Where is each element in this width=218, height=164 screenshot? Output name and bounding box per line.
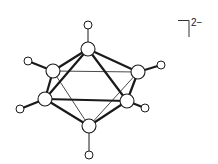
boron-atom-lower-right [120,94,134,108]
hydrogen-atoms [16,21,165,159]
hydrogen-atom-upper-right [157,61,165,69]
boron-atom-top [81,42,95,56]
charge-bracket [178,21,189,38]
boron-atom-lower-left [38,92,52,106]
boron-atom-upper-left [46,64,60,78]
borane-cluster-diagram [0,0,218,164]
hydrogen-atom-lower-right [141,104,149,112]
hydrogen-atom-upper-left [24,57,32,65]
edge-ll-lr [45,99,127,101]
edge-ul-ur [53,71,138,72]
hydrogen-atom-top [84,21,92,29]
hydrogen-atom-bottom [85,151,93,159]
hydrogen-atom-lower-left [16,105,24,113]
boron-atom-bottom [82,119,96,133]
edge-ll-bottom [45,99,89,126]
boron-atom-upper-right [131,65,145,79]
charge-label: 2− [191,17,202,28]
